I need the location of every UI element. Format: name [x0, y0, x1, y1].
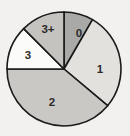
pie-slice-label-3plus: 3+: [41, 23, 54, 35]
pie-slice-label-2: 2: [49, 96, 55, 108]
pie-chart-svg: 01233+: [0, 0, 130, 136]
pie-slices-group: [7, 12, 121, 126]
pie-slice-label-1: 1: [97, 63, 104, 75]
pie-slice-label-3: 3: [25, 49, 31, 61]
pie-slice-label-0: 0: [76, 27, 82, 39]
pie-chart-figure: 01233+: [0, 0, 130, 136]
